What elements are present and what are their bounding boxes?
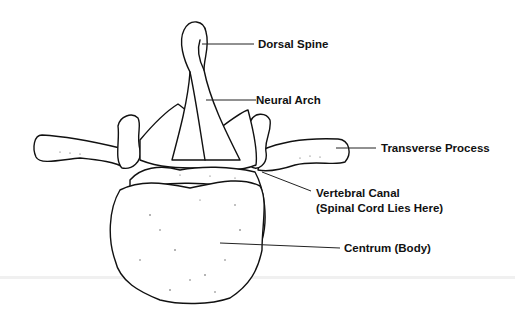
vertebra-diagram: Dorsal Spine Neural Arch Transverse Proc…	[0, 0, 515, 323]
label-neural-arch: Neural Arch	[256, 93, 321, 107]
centrum	[110, 181, 264, 304]
label-vertebral-canal-note: (Spinal Cord Lies Here)	[316, 201, 443, 215]
dorsal-spine	[172, 22, 240, 160]
label-transverse-process: Transverse Process	[381, 141, 490, 155]
right-transverse-process	[258, 139, 349, 171]
label-dorsal-spine: Dorsal Spine	[258, 37, 328, 51]
label-vertebral-canal: Vertebral Canal	[316, 186, 400, 200]
label-centrum: Centrum (Body)	[344, 241, 431, 255]
left-transverse-process	[34, 135, 125, 168]
leader-vertebral-canal	[262, 172, 311, 191]
